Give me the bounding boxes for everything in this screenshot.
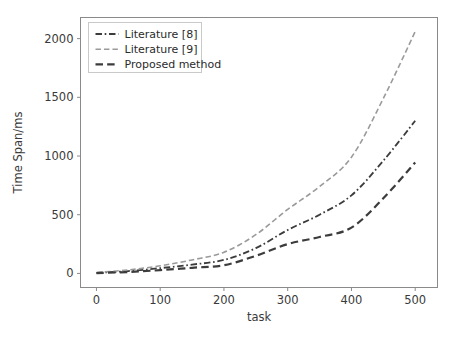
x-tick-label: 500 — [404, 293, 426, 307]
chart-legend: Literature [8]Literature [9]Proposed met… — [89, 23, 222, 73]
x-tick-label: 0 — [93, 293, 100, 307]
y-tick-label: 1000 — [44, 149, 73, 163]
series-line-0 — [96, 121, 415, 273]
legend-label-1: Literature [9] — [125, 43, 198, 56]
x-axis-label: task — [247, 310, 272, 324]
legend-label-0: Literature [8] — [125, 28, 198, 41]
y-tick-label: 1500 — [44, 90, 73, 104]
y-axis-label: Time Span/ms — [11, 112, 25, 195]
figure-canvas: 01002003004005000500100015002000taskTime… — [0, 0, 460, 342]
legend-label-2: Proposed method — [125, 58, 222, 71]
x-tick-label: 100 — [149, 293, 171, 307]
series-line-2 — [96, 162, 415, 273]
y-tick-label: 500 — [52, 208, 74, 222]
axes-group: 01002003004005000500100015002000taskTime… — [11, 18, 438, 324]
y-tick-label: 2000 — [44, 32, 73, 46]
x-tick-label: 400 — [340, 293, 362, 307]
y-tick-label: 0 — [66, 266, 73, 280]
x-tick-label: 300 — [277, 293, 299, 307]
line-chart: 01002003004005000500100015002000taskTime… — [0, 0, 460, 342]
x-tick-label: 200 — [213, 293, 235, 307]
